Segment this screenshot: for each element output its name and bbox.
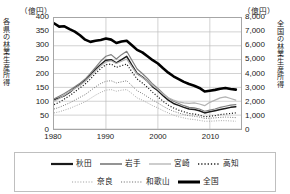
left-tick-label: 100 [36, 98, 49, 106]
legend-item[interactable]: 宮崎 [149, 160, 190, 168]
chart-container: （億円） 各県の林業生産所得 （億円） 全国の林業生産所得 4003503002… [0, 0, 290, 194]
x-tick-label: 2000 [149, 133, 166, 141]
legend-item[interactable]: 全国 [178, 178, 219, 186]
x-tick-label: 2010 [202, 133, 219, 141]
legend-line-swatch [72, 178, 94, 186]
legend-row: 秋田岩手宮崎高知 [15, 154, 275, 173]
right-tick-label: 6,000 [245, 41, 265, 49]
left-tick-label: 400 [36, 13, 49, 21]
right-tick-label: 3,000 [245, 84, 265, 92]
x-tick-label: 1980 [44, 133, 61, 141]
right-tick-label: 2,000 [245, 98, 265, 106]
legend-label: 奈良 [97, 178, 113, 186]
right-tick-label: 0 [245, 126, 249, 134]
series-line-1 [54, 51, 236, 111]
legend-label: 宮崎 [174, 160, 190, 168]
left-tick-label: 300 [36, 41, 49, 49]
legend-item[interactable]: 秋田 [51, 160, 92, 168]
legend-item[interactable]: 岩手 [100, 160, 141, 168]
right-axis-ticks: 8,0007,0006,0005,0004,0003,0002,0001,000… [244, 13, 274, 134]
right-tick-label: 8,000 [245, 13, 265, 21]
legend-item[interactable]: 奈良 [72, 178, 113, 186]
left-tick-label: 200 [36, 70, 49, 78]
right-tick-label: 1,000 [245, 112, 265, 120]
legend-line-swatch [198, 160, 220, 168]
right-tick-label: 4,000 [245, 70, 265, 78]
left-tick-label: 350 [36, 27, 49, 35]
chart-legend: 秋田岩手宮崎高知 奈良和歌山全国 [14, 152, 276, 192]
left-axis-ticks: 400350300250200150100500 [21, 13, 51, 134]
legend-label: 和歌山 [146, 178, 170, 186]
plot-svg [54, 18, 241, 129]
legend-label: 岩手 [125, 160, 141, 168]
legend-item[interactable]: 高知 [198, 160, 239, 168]
series-line-6 [54, 23, 236, 91]
right-axis-title: 全国の林業生産所得 [275, 20, 285, 88]
legend-label: 秋田 [76, 160, 92, 168]
legend-label: 高知 [223, 160, 239, 168]
right-tick-label: 7,000 [245, 27, 265, 35]
plot-area [53, 17, 242, 130]
series-line-4 [54, 90, 236, 122]
legend-line-swatch [100, 160, 122, 168]
left-axis-title: 各県の林業生産所得 [1, 18, 11, 86]
right-tick-label: 5,000 [245, 55, 265, 63]
left-tick-label: 150 [36, 84, 49, 92]
x-tick-label: 1990 [97, 133, 114, 141]
x-axis-ticks: 1980199020002010 [53, 133, 242, 145]
legend-line-swatch [121, 178, 143, 186]
legend-line-swatch [178, 178, 200, 186]
legend-label: 全国 [203, 178, 219, 186]
legend-item[interactable]: 和歌山 [121, 178, 170, 186]
legend-row: 奈良和歌山全国 [15, 172, 275, 191]
left-tick-label: 50 [40, 112, 49, 120]
legend-line-swatch [51, 160, 73, 168]
left-tick-label: 250 [36, 55, 49, 63]
legend-line-swatch [149, 160, 171, 168]
